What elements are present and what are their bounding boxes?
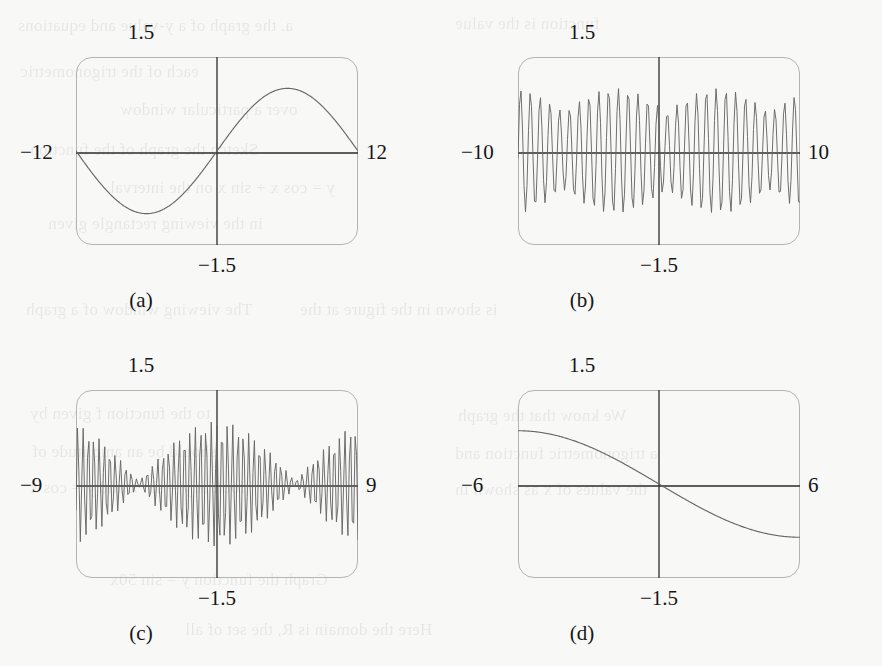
panel-d-ymax-label: 1.5 bbox=[432, 355, 732, 376]
figure-panel-c: 1.5 −9 9 −1.5 (c) bbox=[0, 333, 441, 666]
panel-c-viewport bbox=[76, 390, 358, 578]
figure-panel-b: 1.5 −10 10 −1.5 (b) bbox=[441, 0, 882, 333]
panel-a-xmin-label: −12 bbox=[20, 142, 53, 163]
figure-panel-d: 1.5 −6 6 −1.5 (d) bbox=[441, 333, 882, 666]
panel-c-plot bbox=[76, 390, 358, 578]
panel-d-viewport bbox=[518, 390, 800, 578]
panel-d-plot bbox=[518, 390, 800, 578]
panel-b-plot bbox=[518, 57, 800, 245]
panel-a-ymin-label: −1.5 bbox=[198, 255, 236, 276]
figure-panel-grid: 1.5 −12 12 −1.5 (a) 1.5 −10 10 −1.5 (b) bbox=[0, 0, 882, 666]
panel-d-xmin-label: −6 bbox=[461, 475, 483, 496]
panel-c-caption: (c) bbox=[101, 621, 181, 646]
panel-d-xmax-label: 6 bbox=[808, 475, 819, 496]
panel-c-xmax-label: 9 bbox=[366, 475, 377, 496]
panel-a-plot bbox=[76, 57, 358, 245]
panel-c-ymax-label: 1.5 bbox=[0, 355, 291, 376]
panel-a-ymax-label: 1.5 bbox=[0, 22, 291, 43]
panel-b-xmax-label: 10 bbox=[808, 142, 829, 163]
panel-b-ymin-label: −1.5 bbox=[640, 255, 678, 276]
figure-panel-a: 1.5 −12 12 −1.5 (a) bbox=[0, 0, 441, 333]
panel-c-xmin-label: −9 bbox=[20, 475, 42, 496]
panel-a-viewport bbox=[76, 57, 358, 245]
panel-a-caption: (a) bbox=[101, 288, 181, 313]
panel-b-xmin-label: −10 bbox=[461, 142, 494, 163]
panel-c-ymin-label: −1.5 bbox=[198, 588, 236, 609]
panel-d-caption: (d) bbox=[542, 621, 622, 646]
panel-b-caption: (b) bbox=[542, 288, 622, 313]
panel-b-viewport bbox=[518, 57, 800, 245]
panel-b-ymax-label: 1.5 bbox=[432, 22, 732, 43]
panel-a-xmax-label: 12 bbox=[366, 142, 387, 163]
panel-d-ymin-label: −1.5 bbox=[640, 588, 678, 609]
